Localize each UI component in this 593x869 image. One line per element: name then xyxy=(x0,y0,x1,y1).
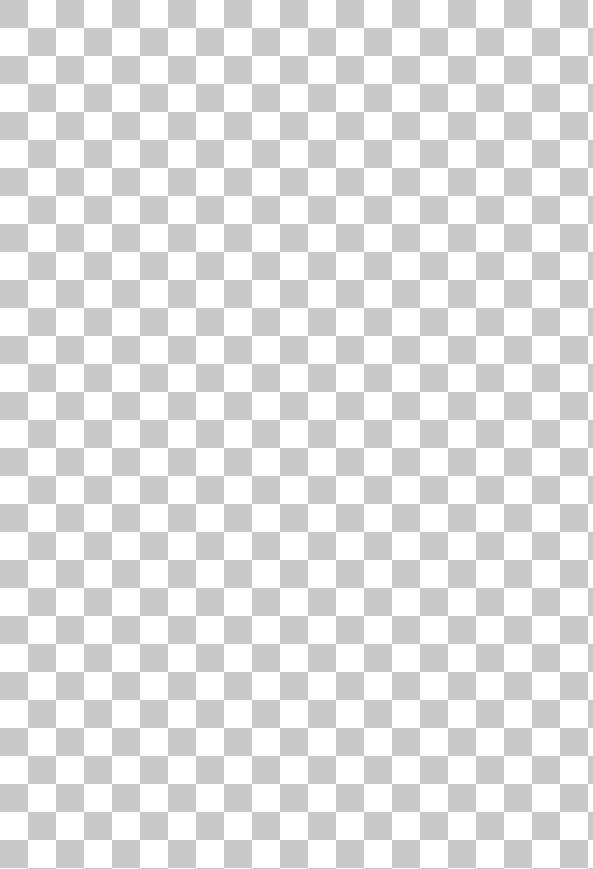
canvas-description: Empty transparent canvas (checkerboard t… xyxy=(0,0,1,1)
transparent-canvas: Empty transparent canvas (checkerboard t… xyxy=(0,0,593,869)
